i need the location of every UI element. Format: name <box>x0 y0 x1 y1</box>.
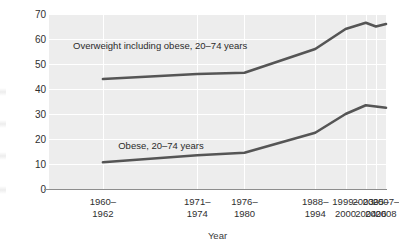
y-tick-10: 10 <box>35 159 46 170</box>
annotation-obese-series: Obese, 20–74 years <box>91 140 231 152</box>
x-tick-1-line1: 1974 <box>184 208 210 220</box>
x-tick-7: 2007–2008 <box>373 196 399 221</box>
scan-artifact-edge <box>0 0 6 248</box>
annotation-overweight-series: Overweight including obese, 20–74 years <box>73 40 223 52</box>
y-tick-50: 50 <box>35 59 46 70</box>
x-tick-3: 1988–1994 <box>302 196 328 221</box>
y-tick-20: 20 <box>35 134 46 145</box>
series-line-1 <box>103 105 386 162</box>
x-tick-7-line0: 2007– <box>373 196 399 208</box>
annotation-overweight-line1: Overweight including obese, <box>73 40 192 51</box>
y-tick-30: 30 <box>35 109 46 120</box>
x-tick-0-line1: 1962 <box>90 208 116 220</box>
x-tick-7-line1: 2008 <box>373 208 399 220</box>
annotation-obese-line1: Obese, 20–74 years <box>118 140 204 151</box>
gridline-v-7 <box>386 14 387 189</box>
x-tick-3-line0: 1988– <box>302 196 328 208</box>
annotation-overweight-line2: 20–74 years <box>195 40 247 51</box>
y-axis-tick-labels: 010203040506070 <box>24 12 46 192</box>
x-axis-label-text: Year <box>208 230 227 241</box>
x-tick-2: 1976–1980 <box>231 196 257 221</box>
x-tick-0: 1960–1962 <box>90 196 116 221</box>
y-tick-60: 60 <box>35 34 46 45</box>
x-tick-2-line0: 1976– <box>231 196 257 208</box>
x-tick-0-line0: 1960– <box>90 196 116 208</box>
y-tick-40: 40 <box>35 84 46 95</box>
plot-area: Overweight including obese, 20–74 years … <box>49 14 386 189</box>
y-tick-70: 70 <box>35 9 46 20</box>
x-axis-line <box>44 189 387 190</box>
x-tick-3-line1: 1994 <box>302 208 328 220</box>
x-axis-label: Year <box>49 230 386 241</box>
x-tick-1-line0: 1971– <box>184 196 210 208</box>
x-tick-2-line1: 1980 <box>231 208 257 220</box>
x-axis-tick-labels: 1960–19621971–19741976–19801988–19941999… <box>49 196 386 230</box>
x-tick-1: 1971–1974 <box>184 196 210 221</box>
